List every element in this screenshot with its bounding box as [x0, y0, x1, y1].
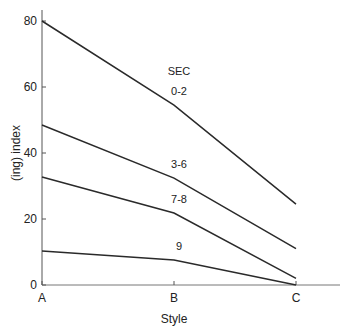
series-line: [42, 177, 296, 278]
series-label: 7-8: [171, 193, 187, 205]
y-tick-label: 0: [30, 278, 37, 292]
y-tick-label: 20: [24, 212, 38, 226]
y-tick-label: 40: [24, 146, 38, 160]
x-tick-label: B: [170, 291, 178, 305]
line-chart: 020406080ABCStyle(ing) index SEC0-23-67-…: [0, 0, 345, 327]
series-line: [42, 251, 296, 285]
x-tick-label: C: [292, 291, 301, 305]
series-lines: [42, 21, 296, 285]
series-label: 0-2: [171, 85, 187, 97]
y-tick-label: 80: [24, 14, 38, 28]
series-label: 9: [176, 240, 182, 252]
x-tick-label: A: [38, 291, 46, 305]
series-label: 3-6: [171, 158, 187, 170]
y-tick-label: 60: [24, 80, 38, 94]
x-axis-label: Style: [161, 312, 188, 326]
legend-title: SEC: [168, 65, 191, 77]
series-labels: SEC0-23-67-89: [168, 65, 191, 252]
y-axis-label: (ing) index: [9, 125, 23, 181]
